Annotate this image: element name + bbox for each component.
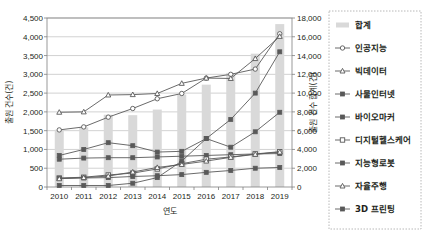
series-4-point-2015 <box>180 154 184 158</box>
series-8-point-2011 <box>82 183 86 187</box>
y-tick-label-1: 500 <box>30 164 44 173</box>
marker-filled-square <box>57 157 61 161</box>
legend-label-지능형로봇: 지능형로봇 <box>355 158 395 168</box>
marker-filled-square <box>229 168 233 172</box>
x-tick-label-2011: 2011 <box>75 192 93 201</box>
series-line-1 <box>59 34 280 130</box>
marker-open-triangle <box>340 68 345 73</box>
marker-filled-square <box>253 91 257 95</box>
series-line-8 <box>59 52 280 186</box>
legend-marker-open-triangle <box>340 183 345 188</box>
series-2-point-2015 <box>179 81 184 86</box>
marker-open-triangle <box>130 92 135 97</box>
marker-filled-square <box>341 115 345 119</box>
series-3-point-2018 <box>253 130 257 134</box>
marker-open-triangle <box>340 183 345 188</box>
series-6-point-2016 <box>204 170 208 174</box>
marker-filled-square <box>82 183 86 187</box>
marker-filled-square <box>278 110 282 114</box>
series-3-point-2019 <box>278 110 282 114</box>
marker-filled-square <box>180 159 184 163</box>
series-line-3 <box>59 112 280 155</box>
y2-tick-label-9: 18,000 <box>297 14 322 23</box>
legend-label-자율주행: 자율주행 <box>355 181 387 191</box>
marker-filled-square <box>131 174 135 178</box>
series-8-point-2016 <box>204 137 208 141</box>
y2-axis-title: 출원 건수 합계(건) <box>308 72 318 132</box>
marker-filled-square <box>180 149 184 153</box>
y-tick-label-8: 4,000 <box>23 33 44 42</box>
y-tick-label-3: 1,500 <box>23 127 44 136</box>
legend-item-합계[interactable]: 합계 <box>336 20 371 30</box>
x-axis-title: 연도 <box>163 207 177 216</box>
series-6-point-2019 <box>278 165 282 169</box>
legend-label-디지털헬스케어: 디지털헬스케어 <box>355 135 411 145</box>
legend-item-지능형로봇[interactable]: 지능형로봇 <box>335 158 395 168</box>
marker-filled-square <box>229 145 233 149</box>
x-tick-label-2012: 2012 <box>99 192 117 201</box>
series-8-point-2013 <box>131 181 135 185</box>
series-3-point-2011 <box>82 147 86 151</box>
legend-item-디지털헬스케어[interactable]: 디지털헬스케어 <box>335 135 411 145</box>
marker-filled-square <box>204 137 208 141</box>
series-2-point-2010 <box>57 110 62 115</box>
series-2-point-2011 <box>81 109 86 114</box>
x-tick-label-2018: 2018 <box>246 192 264 201</box>
y-tick-label-5: 2,500 <box>23 89 44 98</box>
marker-open-triangle <box>155 91 160 96</box>
marker-filled-square <box>155 155 159 159</box>
series-4-point-2012 <box>106 156 110 160</box>
series-1-point-2018 <box>253 67 257 71</box>
marker-filled-square <box>82 147 86 151</box>
y2-tick-label-0: 0 <box>297 183 302 192</box>
series-2-point-2014 <box>155 91 160 96</box>
series-8-point-2012 <box>106 183 110 187</box>
marker-filled-square <box>155 176 159 180</box>
legend-marker-open-circle <box>340 46 344 50</box>
marker-filled-square <box>341 161 345 165</box>
y2-tick-label-2: 4,000 <box>297 145 318 154</box>
marker-filled-square <box>341 207 345 211</box>
marker-filled-square <box>106 156 110 160</box>
y-tick-label-0: 0 <box>39 183 44 192</box>
marker-open-circle <box>340 46 344 50</box>
legend-item-자율주행[interactable]: 자율주행 <box>335 181 387 191</box>
legend-item-사물인터넷[interactable]: 사물인터넷 <box>335 89 395 99</box>
marker-open-circle <box>131 106 135 110</box>
y2-tick-label-7: 14,000 <box>297 52 322 61</box>
series-1-point-2015 <box>180 91 184 95</box>
x-tick-label-2015: 2015 <box>173 192 191 201</box>
marker-open-circle <box>57 128 61 132</box>
marker-open-circle <box>82 125 86 129</box>
series-3-point-2014 <box>155 150 159 154</box>
series-8-point-2015 <box>180 159 184 163</box>
chart-figure: 005002,0001,0004,0001,5006,0002,0008,000… <box>0 0 426 247</box>
marker-filled-square <box>57 183 61 187</box>
marker-filled-square <box>131 181 135 185</box>
series-8-point-2019 <box>278 50 282 54</box>
series-8-point-2017 <box>229 117 233 121</box>
marker-open-circle <box>106 115 110 119</box>
series-3-point-2017 <box>229 145 233 149</box>
series-3-point-2012 <box>106 141 110 145</box>
y-axis-title: 출원 건수(건) <box>4 81 14 125</box>
x-tick-label-2013: 2013 <box>124 192 142 201</box>
legend-label-합계: 합계 <box>355 20 371 30</box>
y-tick-label-7: 3,500 <box>23 52 44 61</box>
series-line-4 <box>59 154 280 160</box>
marker-open-triangle <box>81 109 86 114</box>
marker-open-triangle <box>57 110 62 115</box>
legend-item-바이오마커[interactable]: 바이오마커 <box>335 112 395 122</box>
legend-item-3D 프린팅[interactable]: 3D 프린팅 <box>335 204 395 214</box>
legend-marker-filled-square <box>341 92 345 96</box>
marker-filled-square <box>341 92 345 96</box>
series-8-point-2014 <box>155 176 159 180</box>
x-tick-label-2014: 2014 <box>148 192 166 201</box>
legend-marker-open-triangle <box>340 68 345 73</box>
x-tick-label-2010: 2010 <box>50 192 68 201</box>
legend-label-사물인터넷: 사물인터넷 <box>355 89 395 99</box>
legend-item-빅데이터[interactable]: 빅데이터 <box>335 66 387 76</box>
y2-tick-label-1: 2,000 <box>297 164 318 173</box>
x-tick-label-2016: 2016 <box>197 192 215 201</box>
legend-item-인공지능[interactable]: 인공지능 <box>335 43 387 53</box>
